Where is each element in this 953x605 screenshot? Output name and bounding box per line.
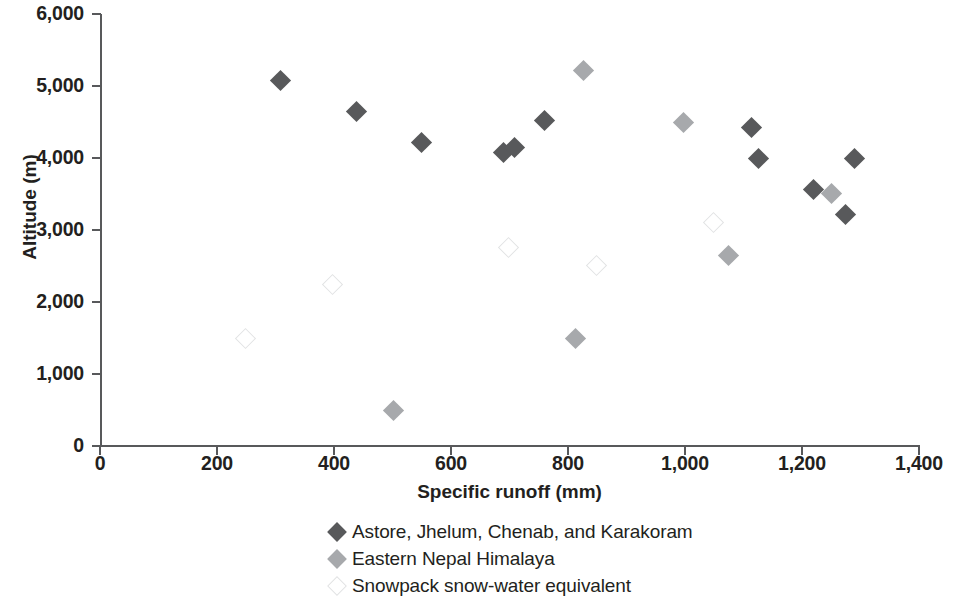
data-point — [533, 110, 554, 131]
legend-item: Astore, Jhelum, Chenab, and Karakoram — [322, 518, 882, 545]
data-point — [835, 204, 856, 225]
data-point — [718, 245, 739, 266]
x-tick-label: 600 — [396, 452, 506, 475]
y-tick-label: 1,000 — [0, 362, 84, 385]
x-tick-label: 800 — [513, 452, 623, 475]
data-point — [498, 237, 519, 258]
data-point — [741, 117, 762, 138]
y-tick-label: 6,000 — [0, 2, 84, 25]
y-axis-title: Altitude (m) — [19, 127, 41, 287]
data-point — [411, 132, 432, 153]
y-tick-label: 3,000 — [0, 218, 84, 241]
data-point — [803, 179, 824, 200]
x-tick-label: 400 — [279, 452, 389, 475]
x-axis-title: Specific runoff (mm) — [100, 481, 919, 503]
legend-swatch-wrapper — [322, 552, 352, 566]
y-tick-label: 4,000 — [0, 146, 84, 169]
legend-diamond-icon — [327, 576, 347, 596]
data-point — [702, 211, 723, 232]
data-point — [573, 60, 594, 81]
plot-area — [100, 14, 919, 446]
x-tick-label: 200 — [162, 452, 272, 475]
x-tick-label: 1,400 — [864, 452, 953, 475]
scatter-chart: 01,0002,0003,0004,0005,0006,000 02004006… — [0, 0, 953, 605]
legend-item: Eastern Nepal Himalaya — [322, 545, 882, 572]
legend-swatch-wrapper — [322, 525, 352, 539]
data-point — [382, 399, 403, 420]
x-tick-label: 1,200 — [747, 452, 857, 475]
data-point — [235, 327, 256, 348]
legend-label: Eastern Nepal Himalaya — [352, 548, 555, 570]
legend-label: Astore, Jhelum, Chenab, and Karakoram — [352, 521, 693, 543]
legend-label: Snowpack snow-water equivalent — [352, 575, 631, 597]
data-point — [322, 274, 343, 295]
x-tick-label: 0 — [45, 452, 155, 475]
data-point — [586, 255, 607, 276]
data-point — [748, 148, 769, 169]
data-point — [346, 101, 367, 122]
legend-swatch-wrapper — [322, 579, 352, 593]
legend-item: Snowpack snow-water equivalent — [322, 572, 882, 599]
chart-legend: Astore, Jhelum, Chenab, and KarakoramEas… — [322, 518, 882, 599]
data-point — [564, 328, 585, 349]
data-point — [844, 147, 865, 168]
data-point — [821, 183, 842, 204]
y-tick-label: 5,000 — [0, 74, 84, 97]
x-tick-label: 1,000 — [630, 452, 740, 475]
data-point — [673, 112, 694, 133]
data-point — [270, 70, 291, 91]
legend-diamond-icon — [327, 522, 347, 542]
y-tick-label: 2,000 — [0, 290, 84, 313]
legend-diamond-icon — [327, 549, 347, 569]
